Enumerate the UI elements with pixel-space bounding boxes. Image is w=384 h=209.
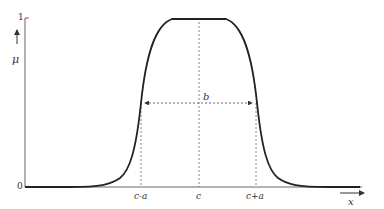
- y-tick-label-1: 1: [18, 13, 24, 22]
- membership-curve: [25, 19, 360, 187]
- y-tick-label-0: 0: [17, 182, 23, 191]
- bell-curve-diagram: [0, 0, 384, 209]
- x-axis-label: x: [348, 197, 354, 207]
- width-b-label: b: [203, 92, 209, 102]
- x-tick-label-c-minus-a: c-a: [134, 192, 147, 201]
- x-tick-label-c: c: [196, 192, 201, 201]
- x-tick-label-c-plus-a: c+a: [246, 192, 264, 201]
- y-axis-label: μ: [12, 54, 19, 65]
